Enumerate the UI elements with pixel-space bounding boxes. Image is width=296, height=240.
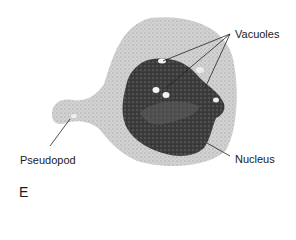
pseudopod-label: Pseudopod xyxy=(20,155,76,166)
vacuoles-label: Vacuoles xyxy=(235,29,279,40)
vacuole xyxy=(153,87,160,93)
vacuole xyxy=(71,114,77,118)
nucleus-label: Nucleus xyxy=(235,154,275,165)
vacuole xyxy=(196,67,204,73)
vacuole xyxy=(158,59,166,64)
panel-letter: E xyxy=(19,185,28,199)
vacuole xyxy=(163,92,170,98)
vacuole xyxy=(213,98,219,103)
